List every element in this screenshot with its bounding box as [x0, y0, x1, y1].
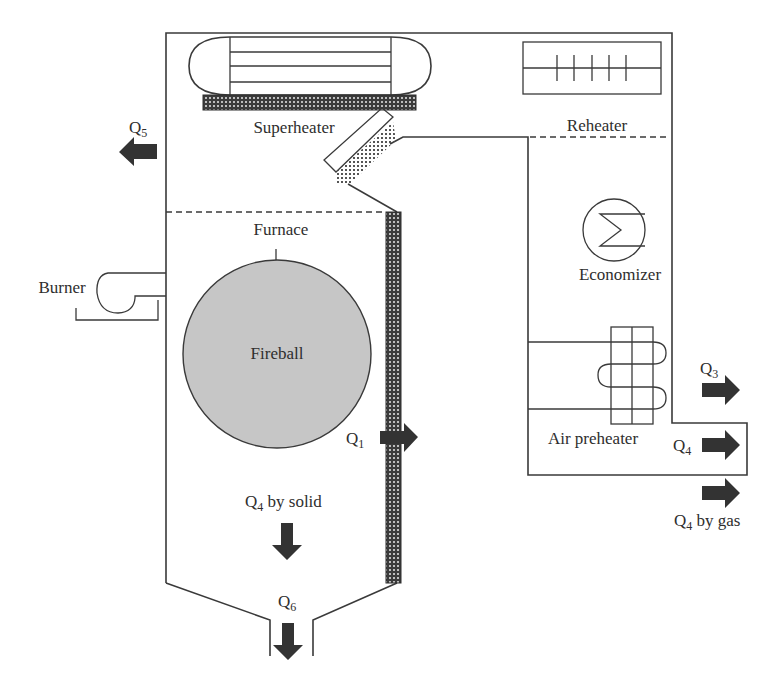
air-preheater-label: Air preheater — [548, 429, 638, 448]
q1-label: Q1 — [346, 429, 364, 451]
q6-label: Q6 — [278, 592, 296, 614]
superheater-label: Superheater — [253, 118, 335, 137]
platen-dots — [335, 122, 396, 185]
q5-arrow-icon — [119, 137, 157, 166]
reheater-label: Reheater — [567, 116, 628, 135]
q6-arrow-icon — [273, 623, 303, 660]
economizer-label: Economizer — [579, 265, 661, 284]
q5-label: Q5 — [129, 118, 147, 140]
air-preheater-unit — [528, 327, 666, 424]
q4-gas-arrow-icon — [702, 478, 740, 508]
burner-label: Burner — [38, 278, 86, 297]
q4-gas-label: Q4 by gas — [674, 511, 740, 533]
burner-symbol — [76, 273, 166, 320]
boiler-heat-balance-diagram: Superheater Reheater Economizer Air preh… — [0, 0, 784, 685]
fireball-label: Fireball — [251, 344, 304, 363]
q3-arrow-icon — [702, 375, 740, 405]
water-wall — [386, 212, 401, 583]
superheater-unit — [189, 37, 431, 185]
q4-duct-label: Q4 — [673, 436, 691, 458]
q4-solid-arrow-icon — [272, 523, 302, 560]
q4-solid-label: Q4 by solid — [245, 492, 322, 514]
superheater-tube-bank — [203, 95, 416, 110]
furnace-label: Furnace — [254, 220, 309, 239]
reheater-unit — [523, 42, 661, 94]
q4-duct-arrow-icon — [702, 430, 740, 460]
q3-label: Q3 — [700, 359, 718, 381]
economizer-symbol — [583, 199, 645, 261]
